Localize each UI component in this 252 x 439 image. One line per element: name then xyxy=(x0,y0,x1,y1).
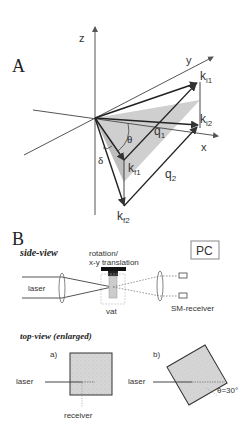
stage-label-line1: rotation/ xyxy=(89,249,119,258)
sample-b xyxy=(167,345,227,405)
figure: A z y x θ δ ki1 ki2 kf1 kf2 q1 q2 xyxy=(0,0,252,439)
top-a-laser-label: laser xyxy=(16,377,34,386)
y-axis-label: y xyxy=(186,54,192,66)
z-axis-label: z xyxy=(79,32,85,44)
rotation-stage xyxy=(101,267,126,271)
stage-label-line2: x-y translation xyxy=(89,258,139,267)
theta-label: θ xyxy=(127,133,132,145)
top-view-a-label: a) xyxy=(50,350,57,359)
x-axis-label: x xyxy=(201,141,207,153)
vat-label: vat xyxy=(106,307,117,316)
lens-2 xyxy=(157,271,163,301)
ki1-label: ki1 xyxy=(200,69,213,85)
panel-b-label: B xyxy=(12,229,24,249)
receiver-2 xyxy=(179,293,187,298)
top-b-laser-label: laser xyxy=(128,377,146,386)
top-b-angle-label: θ=30° xyxy=(217,386,238,395)
receiver-1 xyxy=(179,273,187,278)
top-a-receiver-label: receiver xyxy=(64,411,93,420)
panel-a: A z y x θ δ ki1 ki2 kf1 kf2 q1 q2 xyxy=(12,27,218,225)
sample-a xyxy=(70,353,112,395)
top-view-title: top-view (enlarged) xyxy=(20,331,92,341)
panel-b: B side-view rotation/ x-y translation PC… xyxy=(12,229,238,420)
top-view-b-label: b) xyxy=(153,350,160,359)
ki2-label: ki2 xyxy=(200,112,213,128)
side-laser-label: laser xyxy=(28,284,46,293)
sm-receiver-label: SM-receiver xyxy=(171,304,214,313)
pc-label: PC xyxy=(196,244,213,258)
panel-a-label: A xyxy=(12,56,25,76)
side-view-title: side-view xyxy=(19,247,58,258)
delta-label: δ xyxy=(98,154,103,166)
q2-label: q2 xyxy=(165,167,177,183)
kf2-label: kf2 xyxy=(117,209,130,225)
